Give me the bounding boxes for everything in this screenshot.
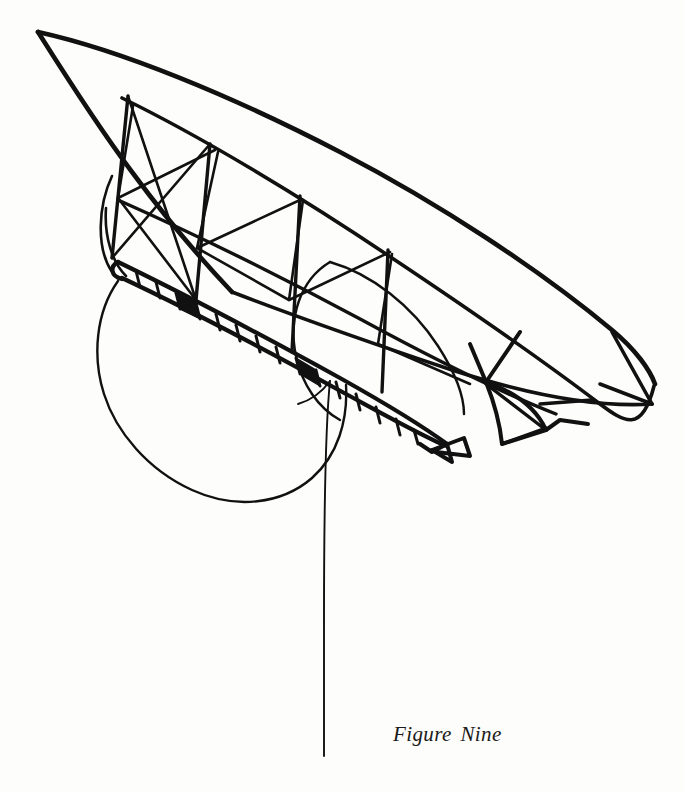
figure-page: Figure Nine xyxy=(0,0,684,792)
nose-tip xyxy=(38,32,232,292)
airship-illustration xyxy=(0,0,684,792)
figure-caption: Figure Nine xyxy=(393,722,502,747)
mooring-line xyxy=(298,381,330,756)
hull-upper-outline xyxy=(38,32,655,384)
gondola-keel xyxy=(112,262,447,452)
tail-fins xyxy=(470,332,592,444)
